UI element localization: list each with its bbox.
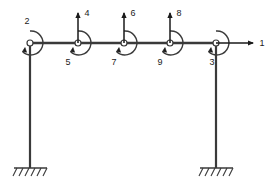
translation-arrows-group xyxy=(78,13,253,43)
dof-label-9: 9 xyxy=(157,57,162,67)
rotation-arc-2-head xyxy=(23,48,27,53)
dof-label-2: 2 xyxy=(24,16,29,26)
frame-diagram: 1 2 3 4 5 6 7 8 9 xyxy=(0,0,269,186)
dof-label-6: 6 xyxy=(130,8,135,18)
dof-label-3: 3 xyxy=(209,57,214,67)
joint-left-top xyxy=(27,40,33,46)
dof-label-4: 4 xyxy=(84,8,89,18)
dof-label-8: 8 xyxy=(176,8,181,18)
rotation-arc-5-head xyxy=(71,48,75,53)
dof-label-7: 7 xyxy=(111,57,116,67)
dof-label-1: 1 xyxy=(259,38,264,48)
frame-members-group xyxy=(30,43,216,168)
rotation-arc-9-head xyxy=(163,48,167,53)
rotation-arc-7-head xyxy=(117,48,121,53)
support-left-hatching xyxy=(13,168,47,176)
dof-label-5: 5 xyxy=(65,57,70,67)
support-left xyxy=(13,168,47,176)
support-right-hatching xyxy=(199,168,233,176)
support-right xyxy=(199,168,233,176)
rotation-arc-3-head xyxy=(209,48,213,53)
frame-diagram-canvas: 1 2 3 4 5 6 7 8 9 xyxy=(0,0,269,186)
dof-labels-group: 1 2 3 4 5 6 7 8 9 xyxy=(24,8,264,67)
